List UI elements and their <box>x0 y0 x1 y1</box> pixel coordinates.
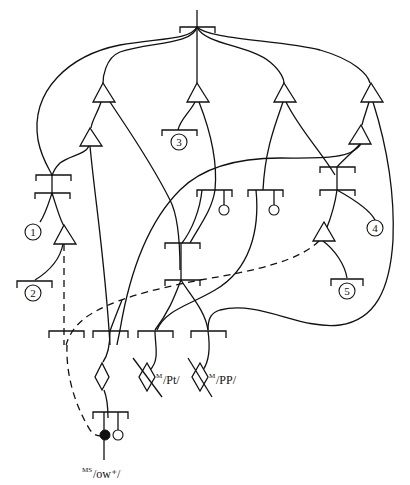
svg-text:M: M <box>156 372 163 380</box>
right-bracket-stack <box>320 167 375 230</box>
svg-text:2: 2 <box>30 287 36 299</box>
node-2: 2 <box>25 285 41 301</box>
triangle-node <box>313 222 335 241</box>
diamond-node <box>95 363 109 390</box>
bracket-node-right <box>248 190 283 215</box>
node-3: 3 <box>171 134 187 150</box>
bottom-bracket-1 <box>49 331 84 338</box>
label-pp: M /PP/ <box>209 372 237 387</box>
svg-text:/Pt/: /Pt/ <box>163 373 180 387</box>
svg-text:1: 1 <box>30 226 36 238</box>
triangle-node <box>93 83 115 102</box>
triangle-node <box>361 83 383 102</box>
svg-text:M: M <box>209 372 216 380</box>
network-diagram: 1 2 3 4 <box>0 0 410 485</box>
node-5: 5 <box>339 283 355 299</box>
svg-text:5: 5 <box>344 285 350 297</box>
triangle-node <box>274 83 296 102</box>
triangle-node <box>54 225 76 244</box>
node-1: 1 <box>25 224 41 240</box>
svg-text:/ow⁺/: /ow⁺/ <box>93 467 121 481</box>
label-ow: MS /ow⁺/ <box>82 466 121 481</box>
svg-text:MS: MS <box>82 466 92 474</box>
label-pt: M /Pt/ <box>156 372 180 387</box>
triangle-node <box>187 83 209 102</box>
svg-text:3: 3 <box>176 136 182 148</box>
node-4: 4 <box>367 220 383 236</box>
triangle-node <box>349 125 371 144</box>
triangle-node <box>80 128 102 146</box>
left-bracket-stack <box>35 175 71 226</box>
svg-text:4: 4 <box>372 222 378 234</box>
svg-text:/PP/: /PP/ <box>216 373 237 387</box>
filled-circle <box>100 430 110 440</box>
open-circle <box>113 430 123 440</box>
center-bracket-stack <box>155 243 208 330</box>
